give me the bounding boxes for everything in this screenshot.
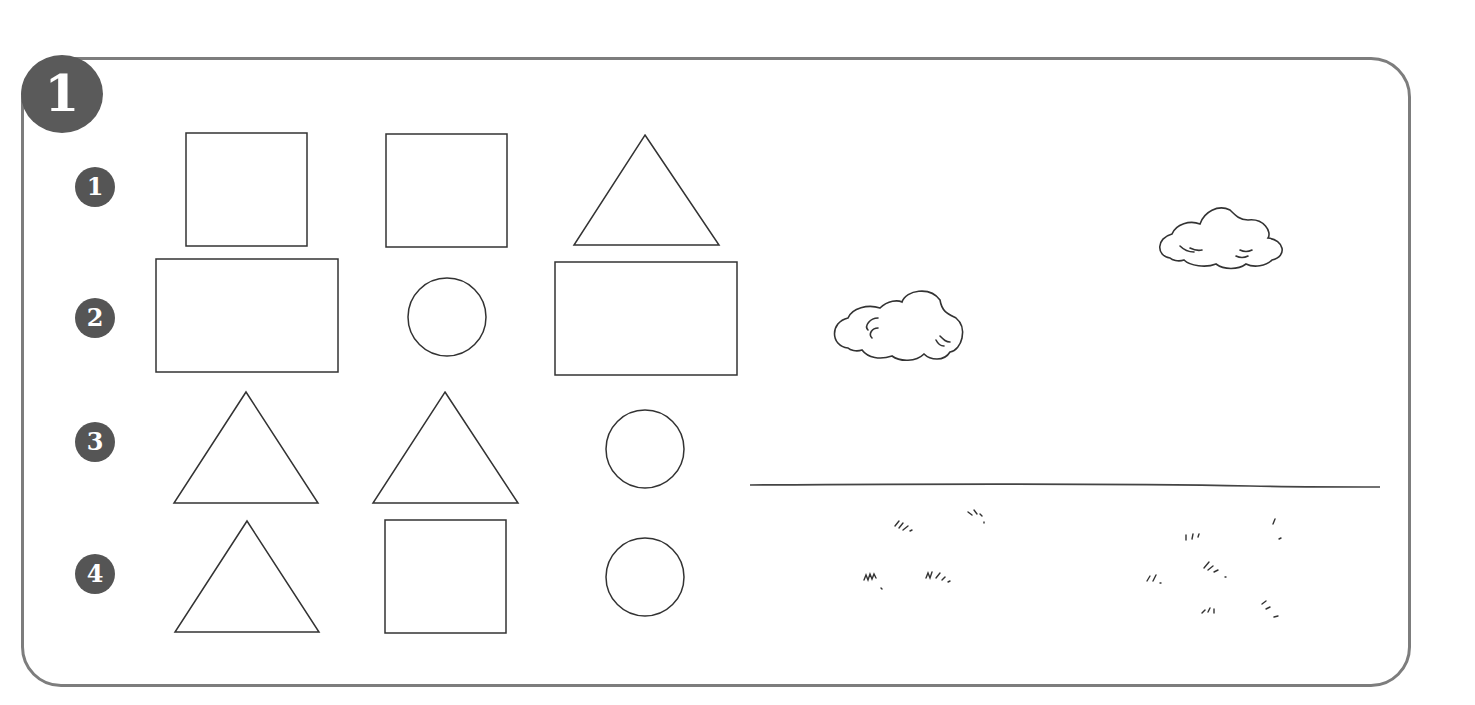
shapes-canvas — [0, 0, 1475, 705]
row3-circle — [606, 410, 684, 488]
row2-circle — [408, 278, 486, 356]
row1-square-2 — [386, 134, 507, 247]
grass-tufts-icon — [864, 510, 1281, 617]
row3-triangle-1 — [174, 392, 318, 503]
row1-triangle — [574, 135, 719, 245]
row3-triangle-2 — [373, 392, 518, 503]
cloud-right-icon — [1160, 208, 1282, 269]
row4-triangle — [175, 521, 319, 632]
row2-rectangle-1 — [156, 259, 338, 372]
row2-rectangle-2 — [555, 262, 737, 375]
cloud-left-icon — [835, 291, 963, 360]
row4-square — [385, 520, 506, 633]
row4-circle — [606, 538, 684, 616]
row1-square-1 — [186, 133, 307, 246]
ground-line — [750, 484, 1380, 487]
